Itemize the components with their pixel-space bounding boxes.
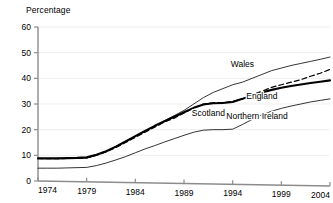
y-tick-label: 30: [22, 99, 32, 109]
series-label-scotland: Scotland: [192, 108, 225, 118]
x-tick-labels: 1974197919841989199419992004: [38, 185, 330, 200]
gridlines: [38, 27, 330, 155]
y-tick-label: 50: [22, 48, 32, 58]
series-annotations: WalesWalesScotlandScotlandEnglandEngland…: [192, 59, 288, 122]
y-tick-label: 40: [22, 73, 32, 83]
x-tick-label: 1979: [77, 186, 96, 196]
x-tick-label: 1984: [126, 187, 145, 197]
chart-container: Percentage 0102030405060 197419791984198…: [0, 0, 333, 203]
x-tick-label: 2004: [311, 190, 330, 200]
x-tick-label: 1999: [272, 189, 291, 199]
y-tick-label: 20: [22, 125, 32, 135]
y-tick-label: 10: [22, 150, 32, 160]
y-tick-label: 0: [26, 176, 31, 186]
series-line-wales: [38, 57, 330, 158]
x-tick-label: 1989: [175, 188, 194, 198]
series-label-northern-ireland: Northern Ireland: [226, 111, 288, 121]
series-label-wales: Wales: [231, 59, 254, 69]
x-tick-label: 1974: [38, 185, 57, 195]
y-tick-label: 60: [22, 22, 32, 32]
x-tick-label: 1994: [223, 188, 242, 198]
series-label-england: England: [246, 91, 277, 101]
line-chart-plot: 0102030405060 19741979198419891994199920…: [0, 0, 333, 203]
x-axis: [38, 177, 330, 186]
y-tick-labels: 0102030405060: [22, 22, 32, 186]
